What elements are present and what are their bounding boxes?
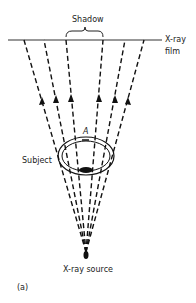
xray-film-label-line1: X-ray — [165, 35, 186, 44]
xray-film-label-line2: film — [165, 47, 180, 56]
arrowhead-6 — [125, 97, 131, 105]
arrowhead-3 — [68, 94, 74, 102]
panel-label: (a) — [17, 283, 28, 292]
diagram-canvas — [0, 0, 196, 303]
xray-beams — [24, 40, 144, 252]
ray-2 — [44, 40, 86, 252]
point-a-label: A — [83, 127, 88, 136]
xray-source-label: X-ray source — [63, 265, 113, 274]
shadow-label: Shadow — [72, 15, 104, 24]
arrowhead-1 — [39, 97, 45, 105]
ray-5 — [86, 40, 125, 252]
shadow-brace — [66, 27, 103, 37]
arrowhead-5 — [112, 95, 118, 103]
subject-label: Subject — [22, 156, 52, 165]
ray-arrowheads — [39, 94, 131, 105]
xray-source-point — [84, 251, 89, 259]
arrowhead-4 — [96, 94, 102, 102]
dense-object — [79, 167, 93, 173]
arrowhead-2 — [53, 95, 59, 103]
